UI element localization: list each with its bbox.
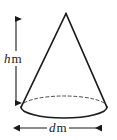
diameter-unit: m bbox=[57, 120, 67, 135]
cone-left-slant-edge bbox=[21, 14, 66, 108]
cone-right-slant-edge bbox=[66, 14, 107, 108]
cone-diagram-svg bbox=[0, 0, 117, 140]
height-unit: m bbox=[12, 51, 22, 66]
cone-diagram: h m d m bbox=[0, 0, 117, 140]
cone-base-front-arc bbox=[21, 107, 107, 118]
height-label: h m bbox=[3, 51, 23, 66]
diameter-label: d m bbox=[47, 120, 69, 135]
cone-base-back-arc bbox=[21, 96, 107, 107]
